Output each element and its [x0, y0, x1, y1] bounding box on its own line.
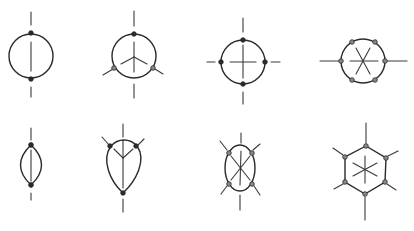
node	[250, 182, 255, 187]
node	[121, 191, 126, 196]
diagram-svg	[0, 0, 414, 231]
outer-bond-upper-left	[333, 148, 343, 155]
outer-bond-upper-right	[253, 144, 260, 150]
node	[29, 31, 34, 36]
diagram-5-lens-two-nodes	[21, 128, 42, 200]
node	[134, 144, 139, 149]
outer-bond-lower-left	[334, 184, 343, 189]
node	[219, 60, 224, 65]
node	[227, 151, 232, 156]
node	[263, 60, 268, 65]
diagram-7-ellipse-four-nodes	[220, 133, 260, 210]
outer-bond-left	[102, 137, 109, 145]
node	[363, 192, 368, 197]
node	[241, 38, 246, 43]
node	[241, 82, 246, 87]
inner-spoke	[123, 149, 133, 158]
diagram-8-hexagon-six-nodes	[333, 123, 398, 220]
node	[343, 180, 348, 185]
diagram-3-circle-four-nodes	[207, 18, 280, 104]
node	[350, 78, 355, 83]
node	[373, 78, 378, 83]
outer-bond-lower-right	[387, 184, 396, 190]
diagram-canvas	[0, 0, 414, 231]
node	[383, 59, 388, 64]
outer-bond-lower-right	[254, 186, 260, 195]
node	[151, 66, 156, 71]
outer-bond-upper-left	[220, 141, 227, 150]
node	[112, 66, 117, 71]
node	[343, 155, 348, 160]
node	[383, 180, 388, 185]
node	[29, 77, 34, 82]
node	[108, 144, 113, 149]
inner-spoke	[121, 57, 134, 64]
outer-bond-left	[103, 69, 113, 75]
node	[384, 156, 389, 161]
inner-spoke	[114, 149, 123, 158]
outer-bond-right	[138, 139, 144, 145]
diagram-1-circle-two-nodes	[9, 12, 53, 97]
node	[339, 59, 344, 64]
node	[227, 182, 232, 187]
node	[132, 32, 137, 37]
outer-bond-right	[155, 69, 163, 74]
inner-spoke	[134, 57, 147, 64]
diagram-6-teardrop-three-nodes	[102, 124, 144, 212]
node	[364, 144, 369, 149]
node	[350, 40, 355, 45]
outer-bond-lower-left	[221, 186, 227, 194]
node	[29, 183, 34, 188]
node	[29, 143, 34, 148]
node	[250, 151, 255, 156]
outer-bond-upper-right	[388, 151, 398, 156]
node	[373, 40, 378, 45]
diagram-2-circle-three-nodes	[103, 11, 163, 98]
diagram-4-circle-six-nodes	[320, 39, 407, 83]
